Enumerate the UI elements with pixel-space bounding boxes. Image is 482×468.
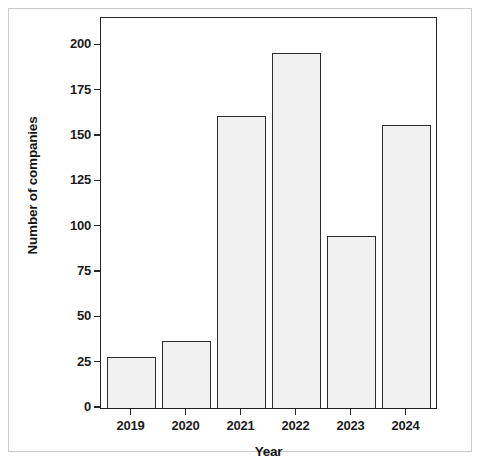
bar-2022 xyxy=(272,53,321,409)
x-axis-tick-mark xyxy=(240,409,241,415)
bars-layer xyxy=(101,18,436,408)
x-axis-tick-mark xyxy=(350,409,351,415)
y-axis-tick-label: 175 xyxy=(70,81,91,98)
bar-2019 xyxy=(107,357,156,408)
bar-chart: Number of companies 0 25 50 75 100 125 1… xyxy=(0,0,482,468)
bar-2021 xyxy=(217,116,266,408)
y-axis-tick-label: 50 xyxy=(77,307,91,324)
bar-2020 xyxy=(162,341,211,408)
bar-2023 xyxy=(327,236,376,408)
y-axis-tick-label: 0 xyxy=(84,398,91,415)
bar-2024 xyxy=(382,125,431,408)
y-axis-tick-label: 100 xyxy=(70,217,91,234)
y-axis-tick-label: 125 xyxy=(70,171,91,188)
x-axis-title: Year xyxy=(100,444,437,459)
y-axis-title: Number of companies xyxy=(25,86,40,286)
x-axis-tick-mark xyxy=(295,409,296,415)
y-axis-tick-label: 200 xyxy=(70,35,91,52)
y-axis-tick-label: 75 xyxy=(77,262,91,279)
y-axis-tick-label: 25 xyxy=(77,353,91,370)
x-axis-tick-mark xyxy=(130,409,131,415)
y-axis-tick-label: 150 xyxy=(70,126,91,143)
x-axis-tick-mark xyxy=(405,409,406,415)
plot-area xyxy=(100,17,437,409)
x-axis-tick-label: 2024 xyxy=(374,418,438,433)
x-axis-tick-mark xyxy=(185,409,186,415)
